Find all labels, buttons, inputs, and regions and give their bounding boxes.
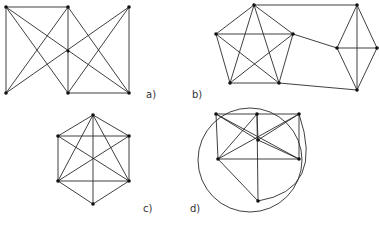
- graph-edge: [216, 34, 279, 83]
- graph-vertex: [4, 5, 8, 9]
- graph-edge: [258, 140, 299, 159]
- graph-vertex: [91, 202, 95, 206]
- graph-edge: [58, 115, 93, 181]
- graph-vertex: [66, 49, 69, 52]
- graph-edge: [230, 5, 254, 83]
- graph-vertex: [66, 5, 70, 9]
- graph-vertex: [4, 91, 8, 95]
- graph-vertex: [297, 157, 301, 161]
- graph-vertex: [127, 5, 131, 9]
- graph-edge: [216, 34, 230, 83]
- graph-edge: [93, 181, 129, 204]
- graph-vertex: [355, 3, 359, 7]
- graph-panel-b: [214, 3, 379, 92]
- graph-vertex: [252, 3, 256, 7]
- graph-vertex: [66, 91, 70, 95]
- graph-panel-a: [4, 5, 131, 95]
- graph-edge: [337, 5, 357, 48]
- panel-label-b: b): [192, 89, 202, 100]
- graph-vertex: [91, 113, 95, 117]
- graph-vertex: [127, 91, 131, 95]
- panel-label-d: d): [190, 203, 200, 214]
- graph-figure: a) b) c) d): [0, 0, 379, 228]
- graph-vertex: [56, 179, 60, 183]
- graph-edge: [254, 5, 293, 34]
- graph-vertex: [256, 138, 260, 142]
- graph-vertex: [291, 32, 295, 36]
- graph-vertex: [214, 32, 218, 36]
- graph-panel-c: [56, 113, 131, 206]
- graph-vertex: [214, 112, 218, 116]
- graph-vertex: [297, 112, 301, 116]
- graph-edge: [218, 114, 257, 159]
- graph-edge: [337, 48, 357, 90]
- graph-edge: [254, 5, 279, 83]
- graph-vertex: [56, 134, 60, 138]
- graph-edge: [357, 5, 377, 48]
- graph-panel-d: [198, 108, 306, 212]
- graph-edge: [216, 5, 254, 34]
- graph-vertex: [256, 199, 260, 203]
- graph-edge: [279, 83, 357, 90]
- graph-edge: [58, 181, 93, 204]
- graph-edge: [218, 159, 258, 201]
- graph-vertex: [375, 46, 379, 50]
- graph-edge: [230, 34, 293, 83]
- graph-edge: [357, 48, 377, 90]
- circle-edge: [198, 108, 302, 212]
- graph-vertex: [127, 134, 131, 138]
- graph-vertex: [335, 46, 339, 50]
- graph-edge: [93, 115, 129, 181]
- graph-vertex: [255, 112, 259, 116]
- panel-label-c: c): [143, 203, 152, 214]
- graph-edge: [216, 114, 218, 159]
- graph-vertex: [127, 179, 131, 183]
- graph-vertex: [277, 81, 281, 85]
- graph-edge: [293, 34, 337, 48]
- panel-label-a: a): [146, 89, 156, 100]
- graph-edge: [279, 34, 293, 83]
- graph-vertex: [355, 88, 359, 92]
- graph-vertex: [216, 157, 220, 161]
- graph-vertex: [228, 81, 232, 85]
